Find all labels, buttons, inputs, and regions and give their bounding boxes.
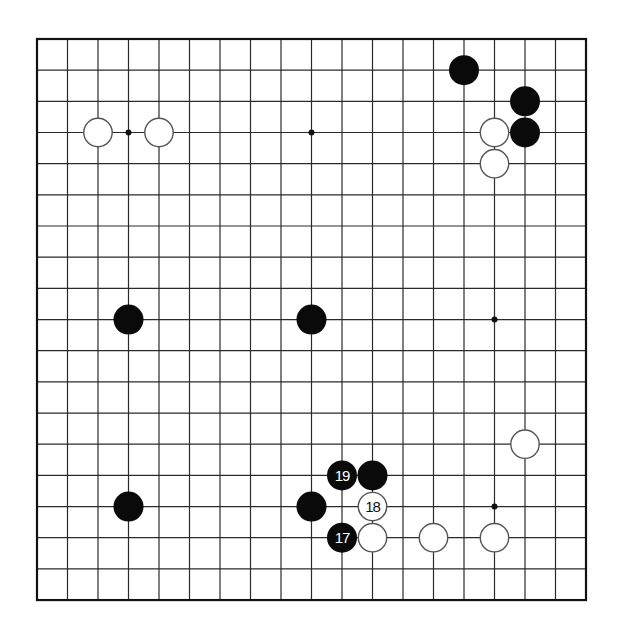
black-stone[interactable]: 19	[327, 460, 357, 490]
white-stone[interactable]	[358, 524, 386, 552]
stone-circle	[449, 55, 479, 85]
stone-circle	[145, 118, 173, 146]
star-point	[309, 130, 315, 136]
black-stone[interactable]	[358, 460, 388, 490]
stone-circle	[510, 118, 540, 148]
white-stone[interactable]	[480, 149, 508, 177]
black-stone[interactable]: 17	[327, 523, 357, 553]
black-stone[interactable]	[510, 118, 540, 148]
star-point	[492, 317, 498, 323]
white-stone[interactable]	[419, 524, 447, 552]
stone-circle	[358, 460, 388, 490]
stone-circle	[419, 524, 447, 552]
star-point	[492, 504, 498, 510]
stone-circle	[480, 118, 508, 146]
white-stone[interactable]	[145, 118, 173, 146]
white-stone[interactable]	[511, 430, 539, 458]
stone-circle	[297, 492, 327, 522]
white-stone[interactable]	[84, 118, 112, 146]
stone-circle	[297, 305, 327, 335]
black-stone[interactable]	[114, 305, 144, 335]
black-stone[interactable]	[449, 55, 479, 85]
stone-circle	[84, 118, 112, 146]
black-stone[interactable]	[114, 492, 144, 522]
stone-circle	[114, 305, 144, 335]
stone-circle	[114, 492, 144, 522]
stone-circle	[358, 524, 386, 552]
white-stone[interactable]: 18	[358, 492, 386, 520]
move-number-label: 19	[335, 467, 350, 484]
star-point	[126, 130, 132, 136]
white-stone[interactable]	[480, 524, 508, 552]
black-stone[interactable]	[297, 492, 327, 522]
stone-circle	[480, 149, 508, 177]
stone-circle	[511, 430, 539, 458]
go-board[interactable]: 191817	[0, 0, 619, 643]
black-stone[interactable]	[510, 86, 540, 116]
stone-circle	[480, 524, 508, 552]
move-number-label: 17	[335, 529, 350, 546]
black-stone[interactable]	[297, 305, 327, 335]
stone-circle	[510, 86, 540, 116]
move-number-label: 18	[365, 498, 380, 515]
white-stone[interactable]	[480, 118, 508, 146]
